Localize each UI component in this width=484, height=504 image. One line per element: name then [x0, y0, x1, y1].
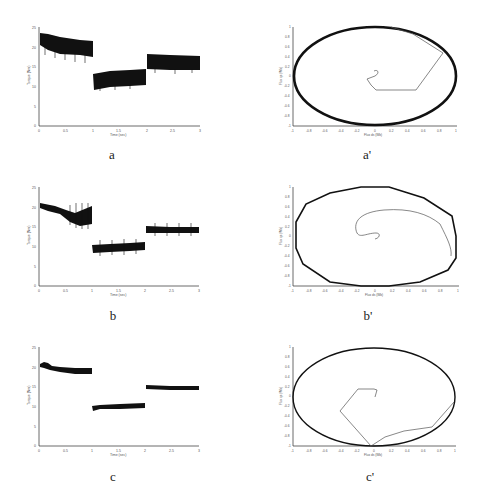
- tick-labels: 2520151050 00.511.522.53 Time (sec) Torq…: [27, 186, 200, 297]
- svg-text:1: 1: [455, 129, 457, 133]
- svg-text:15: 15: [32, 385, 36, 389]
- svg-text:25: 25: [32, 186, 36, 190]
- svg-text:2: 2: [144, 289, 146, 293]
- svg-text:-0.8: -0.8: [306, 129, 312, 133]
- caption-b-prime: b': [364, 308, 373, 324]
- svg-text:15: 15: [32, 225, 36, 229]
- svg-text:0: 0: [289, 74, 291, 78]
- svg-text:1: 1: [289, 185, 291, 189]
- flux-plot-a-prime: 10.80.60.40.20-0.2-0.4-0.6-0.8-1 -1-0.8-…: [242, 0, 484, 170]
- svg-text:0.4: 0.4: [405, 449, 410, 453]
- svg-text:0: 0: [34, 284, 36, 288]
- svg-text:-0.4: -0.4: [338, 449, 344, 453]
- svg-text:-0.6: -0.6: [284, 264, 290, 268]
- svg-text:-0.2: -0.2: [354, 129, 360, 133]
- svg-text:-0.2: -0.2: [354, 289, 360, 293]
- svg-text:Flux qs (Wb): Flux qs (Wb): [279, 67, 283, 85]
- flux-locus: [296, 187, 456, 286]
- svg-text:2: 2: [146, 129, 148, 133]
- svg-text:Flux ds (Wb): Flux ds (Wb): [364, 453, 382, 457]
- svg-text:-0.4: -0.4: [284, 414, 290, 418]
- axes: [39, 187, 199, 286]
- svg-text:2.5: 2.5: [170, 129, 175, 133]
- svg-text:10: 10: [32, 245, 36, 249]
- svg-text:-0.8: -0.8: [284, 114, 290, 118]
- svg-text:0.4: 0.4: [285, 375, 290, 379]
- svg-text:Flux ds (Wb): Flux ds (Wb): [364, 133, 382, 137]
- svg-text:1: 1: [289, 345, 291, 349]
- svg-text:0.2: 0.2: [285, 385, 290, 389]
- tick-labels: 10.80.60.40.20-0.2-0.4-0.6-0.8-1 -1-0.8-…: [279, 185, 459, 297]
- svg-text:0.8: 0.8: [285, 195, 290, 199]
- svg-text:5: 5: [34, 265, 36, 269]
- svg-text:Time (sec): Time (sec): [110, 293, 126, 297]
- svg-text:-0.6: -0.6: [322, 449, 328, 453]
- svg-text:-0.4: -0.4: [284, 254, 290, 258]
- svg-text:2.5: 2.5: [169, 449, 174, 453]
- caption-c-prime: c': [366, 469, 374, 485]
- flux-transient: [367, 27, 443, 90]
- svg-text:0: 0: [38, 449, 40, 453]
- svg-text:0.5: 0.5: [63, 289, 68, 293]
- flux-transient: [340, 389, 454, 446]
- svg-text:0: 0: [34, 124, 36, 128]
- svg-text:-0.2: -0.2: [284, 244, 290, 248]
- svg-text:0.6: 0.6: [285, 365, 290, 369]
- svg-text:-1: -1: [291, 129, 294, 133]
- flux-plot-c-prime: 10.80.60.40.20-0.2-0.4-0.6-0.8-1 -1-0.8-…: [242, 340, 484, 504]
- torque-plot-c: 2520151050 00.511.522.53 Time (sec) Torq…: [0, 340, 242, 504]
- svg-text:5: 5: [34, 425, 36, 429]
- svg-text:-0.6: -0.6: [322, 129, 328, 133]
- tick-labels: 2520151050 00.511.522.53 Time (sec) Torq…: [27, 346, 200, 457]
- svg-text:0: 0: [289, 234, 291, 238]
- caption-c: c: [110, 469, 116, 485]
- svg-text:0.8: 0.8: [437, 449, 442, 453]
- svg-text:Torque (Nm): Torque (Nm): [27, 386, 31, 405]
- torque-trace: [40, 362, 199, 411]
- svg-text:-0.4: -0.4: [338, 289, 344, 293]
- torque-trace: [40, 33, 200, 90]
- svg-text:20: 20: [32, 366, 36, 370]
- svg-text:0.6: 0.6: [285, 205, 290, 209]
- svg-text:1: 1: [92, 129, 94, 133]
- svg-text:-1: -1: [288, 444, 291, 448]
- svg-text:10: 10: [32, 405, 36, 409]
- svg-text:0.6: 0.6: [421, 449, 426, 453]
- svg-text:1: 1: [457, 289, 459, 293]
- svg-text:Flux qs (Wb): Flux qs (Wb): [279, 227, 283, 245]
- flux-locus: [293, 348, 455, 446]
- svg-text:3: 3: [198, 289, 200, 293]
- svg-text:20: 20: [32, 206, 36, 210]
- svg-text:5: 5: [34, 105, 36, 109]
- torque-plot-a: 2520151050 00.511.522.53 Time (sec) Torq…: [0, 0, 242, 170]
- svg-text:1: 1: [91, 289, 93, 293]
- svg-text:1: 1: [91, 449, 93, 453]
- svg-text:0.2: 0.2: [389, 449, 394, 453]
- svg-text:25: 25: [32, 26, 36, 30]
- svg-text:0.5: 0.5: [63, 449, 68, 453]
- svg-text:1: 1: [454, 449, 456, 453]
- svg-text:0.8: 0.8: [285, 35, 290, 39]
- svg-text:Torque (Nm): Torque (Nm): [27, 66, 31, 85]
- axes: [293, 187, 459, 286]
- svg-text:3: 3: [199, 129, 201, 133]
- svg-text:-0.6: -0.6: [284, 424, 290, 428]
- svg-text:0.8: 0.8: [437, 129, 442, 133]
- svg-text:0.2: 0.2: [390, 289, 395, 293]
- svg-text:-0.2: -0.2: [284, 84, 290, 88]
- flux-transient: [356, 210, 451, 256]
- svg-text:0: 0: [38, 289, 40, 293]
- svg-text:-0.6: -0.6: [322, 289, 328, 293]
- svg-text:Torque (Nm): Torque (Nm): [27, 226, 31, 245]
- svg-text:3: 3: [198, 449, 200, 453]
- caption-a: a: [109, 147, 115, 163]
- svg-text:-0.2: -0.2: [354, 449, 360, 453]
- svg-text:0.8: 0.8: [438, 289, 443, 293]
- caption-b: b: [110, 308, 117, 324]
- svg-text:-0.8: -0.8: [306, 289, 312, 293]
- svg-text:0: 0: [38, 129, 40, 133]
- svg-text:25: 25: [32, 346, 36, 350]
- svg-text:Flux qs (Wb): Flux qs (Wb): [279, 387, 283, 405]
- svg-text:0.5: 0.5: [63, 129, 68, 133]
- svg-text:-0.2: -0.2: [284, 404, 290, 408]
